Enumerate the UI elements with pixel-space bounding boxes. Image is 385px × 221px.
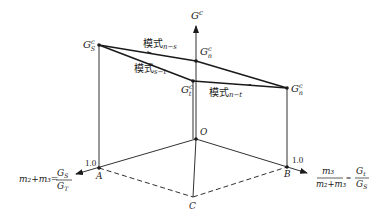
tick-b: 1.0: [292, 155, 304, 165]
label-b: B: [283, 169, 291, 179]
point-gn-top: [194, 59, 198, 63]
point-a: [97, 166, 101, 170]
ternary-mode-diagram: Gc GcS Gcn Gct Gcn 模式n−s 模式s−t 模式n−t O A…: [0, 0, 385, 221]
axis-o-c: [193, 139, 196, 197]
tick-a: 1.0: [85, 158, 97, 168]
label-o: O: [200, 127, 208, 137]
left-den: GT: [57, 181, 69, 192]
left-axis-formula: m₂+m₃= GS GT: [19, 168, 72, 192]
label-gn-top: Gcn: [200, 45, 212, 60]
label-mode-s-t: 模式s−t: [134, 62, 166, 76]
point-o: [194, 137, 198, 141]
point-gs: [97, 43, 101, 47]
right-frac2-num: Gt: [356, 166, 366, 177]
right-frac1-den: m₂+m₃: [316, 179, 347, 189]
label-c: C: [189, 201, 196, 211]
right-frac1-num: m₃: [322, 166, 335, 176]
label-gn-right: Gcn: [291, 82, 303, 97]
axis-label-gc: Gc: [191, 9, 203, 21]
point-gn-right: [285, 86, 289, 90]
label-gs: GcS: [83, 38, 96, 53]
label-a: A: [95, 171, 103, 181]
dashed-c-b: [193, 167, 287, 197]
right-axis-formula: m₃ m₂+m₃ = Gt GS: [316, 166, 369, 190]
right-eq: =: [346, 173, 351, 183]
left-lhs: m₂+m₃=: [19, 174, 58, 184]
axis-right: [196, 139, 307, 173]
label-mode-n-t: 模式n−t: [209, 86, 242, 99]
label-gt: Gct: [181, 83, 193, 98]
right-frac2-den: GS: [356, 179, 367, 190]
left-num: GS: [57, 168, 68, 179]
dashed-a-c: [99, 168, 193, 197]
axis-left: [76, 139, 196, 174]
label-mode-n-s: 模式n−s: [143, 37, 177, 51]
